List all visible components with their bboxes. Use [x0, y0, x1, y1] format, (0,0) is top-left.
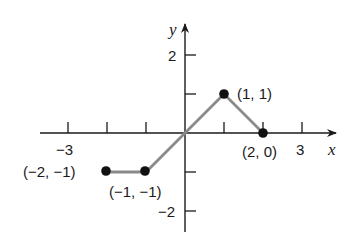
- coordinate-plane: −3 3 2 −2 x y (−2, −1) (−1, −1) (1, 1) (…: [0, 0, 354, 238]
- x-axis-label: x: [327, 140, 336, 159]
- point-2-0: [258, 128, 268, 138]
- point-label-neg1-neg1: (−1, −1): [109, 183, 162, 200]
- point-neg2-neg1: [101, 166, 111, 176]
- tick-label-x-neg3: −3: [56, 141, 73, 158]
- tick-label-x-3: 3: [296, 141, 304, 158]
- point-neg1-neg1: [140, 166, 150, 176]
- graph-figure: −3 3 2 −2 x y (−2, −1) (−1, −1) (1, 1) (…: [0, 0, 354, 238]
- point-label-2-0: (2, 0): [242, 143, 277, 160]
- point-label-neg2-neg1: (−2, −1): [23, 163, 76, 180]
- tick-label-y-2: 2: [168, 47, 176, 64]
- tick-label-y-neg2: −2: [158, 203, 175, 220]
- point-label-1-1: (1, 1): [237, 85, 272, 102]
- y-axis-label: y: [167, 20, 177, 39]
- point-1-1: [219, 89, 229, 99]
